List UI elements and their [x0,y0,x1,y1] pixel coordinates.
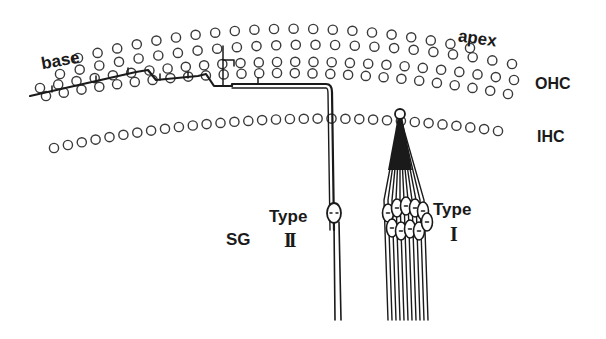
outer-hair-cell [163,64,172,73]
diagram-canvas [0,0,606,339]
outer-hair-cell [272,68,281,77]
label-type-i-numeral: I [450,224,458,244]
inner-hair-cell [438,120,447,129]
inner-hair-cell [271,115,280,124]
outer-hair-cell [213,44,222,53]
outer-hair-cell [254,58,263,67]
outer-hair-cell [230,26,239,35]
label-type-ii-numeral: II [284,230,294,250]
outer-hair-cell [344,70,353,79]
inner-hair-cell [341,114,350,123]
outer-hair-cell [418,63,427,72]
inner-hair-cell [188,121,197,130]
outer-hair-cell [93,48,102,57]
outer-hair-cell [311,40,320,49]
inner-hair-cell [230,117,239,126]
outer-hair-cell [134,54,143,63]
outer-hair-cell [486,86,495,95]
outer-hair-cell [269,24,278,33]
outer-hair-cell [114,57,123,66]
inner-hair-cell [424,119,433,128]
outer-hair-cell [370,42,379,51]
outer-hair-cell [130,77,139,86]
outer-hair-cell [350,41,359,50]
inner-hair-cell [452,121,461,130]
outer-hair-cell [113,80,122,89]
outer-hair-cell [446,39,455,48]
outer-hair-cell [364,59,373,68]
outer-hair-cell [290,69,299,78]
outer-hair-cell [367,28,376,37]
inner-hair-cell [91,135,100,144]
outer-hair-cell [250,25,259,34]
outer-hair-cell [448,50,457,59]
inner-hair-cell [77,138,86,147]
outer-hair-cell [326,69,335,78]
outer-hair-cell [232,43,241,52]
inner-hair-cell [174,122,183,131]
inner-hair-cell [244,116,253,125]
ihc-row [49,114,502,153]
outer-hair-cell [54,80,63,89]
outer-hair-cell [291,57,300,66]
label-sg: SG [226,231,251,248]
inner-hair-cell [410,117,419,126]
inner-hair-cell [299,114,308,123]
label-type-ii-word: Type [269,208,307,225]
outer-hair-cell [272,57,281,66]
outer-hair-cell [382,60,391,69]
outer-hair-cell [437,65,446,74]
outer-hair-cell [473,70,482,79]
inner-hair-cell [216,118,225,127]
outer-hair-cell [450,81,459,90]
outer-hair-cell [507,59,516,68]
label-ohc: OHC [535,76,571,92]
outer-hair-cell [361,71,370,80]
outer-hair-cell [309,24,318,33]
outer-hair-cell [173,48,182,57]
outer-hair-cell [426,36,435,45]
outer-hair-cell [400,62,409,71]
inner-hair-cell [493,126,502,135]
outer-hair-cell [200,61,209,70]
outer-hair-cell [236,59,245,68]
outer-hair-cell [191,30,200,39]
inner-hair-cell [466,123,475,132]
outer-hair-cell [272,41,281,50]
outer-hair-cell [432,78,441,87]
inner-hair-cell [49,143,58,152]
outer-hair-cell [327,58,336,67]
outer-hair-cell [328,25,337,34]
inner-hair-cell [285,114,294,123]
outer-hair-cell [255,69,264,78]
outer-hair-cell [345,58,354,67]
inner-hair-cell [133,128,142,137]
outer-hair-cell [113,44,122,53]
outer-hair-cell [455,67,464,76]
inner-hair-cell [147,126,156,135]
inner-hair-cell [480,125,489,134]
outer-hair-cell [237,69,246,78]
outer-hair-cell [171,33,180,42]
outer-hair-cell [95,82,104,91]
outer-hair-cell [468,83,477,92]
label-type-i-word: Type [433,201,471,218]
inner-hair-cell [202,120,211,129]
outer-hair-cell [407,33,416,42]
outer-hair-cell [154,51,163,60]
outer-hair-cell [252,42,261,51]
outer-hair-cell [379,73,388,82]
inner-hair-cell [105,133,114,142]
inner-hair-cell [382,116,391,125]
outer-hair-cell [415,76,424,85]
type-ii-fiber [30,46,341,320]
outer-hair-cell [503,89,512,98]
outer-hair-cell [181,62,190,71]
outer-hair-cell [509,75,518,84]
outer-hair-cell [491,73,500,82]
outer-hair-cell [429,47,438,56]
outer-hair-cell [193,46,202,55]
inner-hair-cell [258,116,267,125]
outer-hair-cell [211,28,220,37]
outer-hair-cell [409,45,418,54]
